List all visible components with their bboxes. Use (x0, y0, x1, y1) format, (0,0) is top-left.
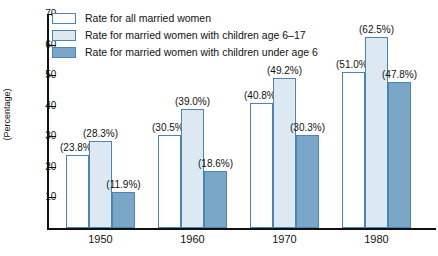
bar-value-1980-children-age-6-17: (62.5%) (359, 25, 394, 35)
x-axis-label-1950: 1950 (66, 234, 135, 245)
x-axis-line (47, 228, 436, 230)
bar-1950-all-married-women: (23.8%) (66, 155, 89, 228)
bar-1980-all-married-women: (51.0%) (342, 72, 365, 228)
plot-area: (23.8%)(28.3%)(11.9%)1950(30.5%)(39.0%)(… (47, 0, 436, 228)
bar-1970-all-married-women: (40.8%) (250, 103, 273, 228)
bar-group-1950: (23.8%)(28.3%)(11.9%)1950 (66, 0, 135, 228)
bar-group-1970: (40.8%)(49.2%)(30.3%)1970 (250, 0, 319, 228)
x-axis-label-1970: 1970 (250, 234, 319, 245)
bar-value-1970-children-age-6-17: (49.2%) (267, 66, 302, 76)
bar-1980-children-under-age-6: (47.8%) (388, 82, 411, 228)
bar-group-1980: (51.0%)(62.5%)(47.8%)1980 (342, 0, 411, 228)
y-axis-title: (Percentage) (3, 79, 12, 151)
bar-1960-children-under-age-6: (18.6%) (204, 171, 227, 228)
bar-1980-children-age-6-17: (62.5%) (365, 37, 388, 228)
bar-value-1950-children-age-6-17: (28.3%) (83, 129, 118, 139)
bar-value-1960-children-age-6-17: (39.0%) (175, 97, 210, 107)
chart-container: (Percentage) 10203040506070 Rate for all… (0, 0, 438, 256)
bar-value-1980-children-under-age-6: (47.8%) (382, 70, 417, 80)
bar-group-1960: (30.5%)(39.0%)(18.6%)1960 (158, 0, 227, 228)
bar-value-1970-children-under-age-6: (30.3%) (290, 123, 325, 133)
bar-1950-children-under-age-6: (11.9%) (112, 192, 135, 228)
bar-1970-children-under-age-6: (30.3%) (296, 135, 319, 228)
x-axis-label-1960: 1960 (158, 234, 227, 245)
bar-1970-children-age-6-17: (49.2%) (273, 78, 296, 228)
x-axis-label-1980: 1980 (342, 234, 411, 245)
bar-value-1950-children-under-age-6: (11.9%) (106, 180, 140, 190)
bar-1960-all-married-women: (30.5%) (158, 135, 181, 228)
bar-value-1960-children-under-age-6: (18.6%) (198, 159, 233, 169)
